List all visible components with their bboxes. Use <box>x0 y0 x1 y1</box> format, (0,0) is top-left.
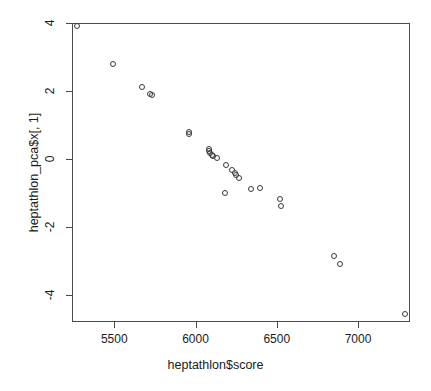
y-axis-tick <box>66 91 72 92</box>
x-axis-tick-label: 5500 <box>101 332 128 346</box>
x-axis-tick <box>277 322 278 328</box>
y-axis-title: heptathlon_pca$x[, 1] <box>24 23 44 322</box>
y-axis-tick-label: 2 <box>43 81 57 101</box>
x-axis-tick-label: 6000 <box>182 332 209 346</box>
x-axis-title: heptathlon$score <box>0 358 431 372</box>
y-axis-tick-label: -4 <box>43 285 57 305</box>
x-axis-tick-label: 7000 <box>345 332 372 346</box>
y-axis-tick-label: 0 <box>43 149 57 169</box>
x-axis-tick-label: 6500 <box>263 332 290 346</box>
x-axis-tick <box>114 322 115 328</box>
scatter-plot-figure: 5500600065007000420-2-4 heptathlon$score… <box>0 0 431 391</box>
x-axis-tick <box>358 322 359 328</box>
y-axis-tick <box>66 159 72 160</box>
y-axis-tick <box>66 23 72 24</box>
y-axis-tick <box>66 227 72 228</box>
y-axis-tick <box>66 295 72 296</box>
x-axis-tick <box>196 322 197 328</box>
plot-panel <box>72 23 410 322</box>
y-axis-tick-label: 4 <box>43 13 57 33</box>
y-axis-tick-label: -2 <box>43 217 57 237</box>
